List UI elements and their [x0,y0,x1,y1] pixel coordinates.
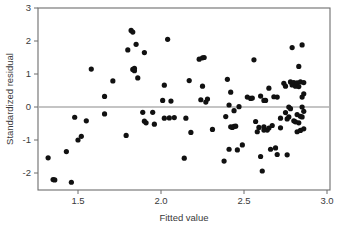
data-point [140,110,145,115]
data-point [226,102,231,107]
data-point [275,152,280,157]
data-point [236,104,241,109]
data-point [89,66,94,71]
data-point [198,97,203,102]
data-point [162,116,167,121]
y-axis-tick-labels: -2-10123 [23,2,31,178]
data-point [210,127,215,132]
data-point [160,98,165,103]
data-point [233,124,238,129]
data-point [266,86,271,91]
y-axis-title: Standardized residual [4,53,15,145]
data-point [143,120,148,125]
x-tick-label: 2.5 [237,195,250,206]
data-point [288,106,293,111]
data-points [46,28,307,185]
data-point [250,95,255,100]
data-point [200,84,205,89]
data-point [268,147,273,152]
data-point [188,130,193,135]
plot-frame [38,8,330,190]
data-point [102,94,107,99]
data-point [52,177,57,182]
data-point [167,115,172,120]
data-point [290,45,295,50]
data-point [182,156,187,161]
data-point [283,84,288,89]
data-point [300,42,305,47]
y-tick-label: 3 [26,2,31,13]
data-point [183,116,188,121]
data-point [134,42,139,47]
data-point [245,95,250,100]
data-point [256,125,261,130]
y-tick-label: -2 [23,167,31,178]
data-point [258,94,263,99]
data-point [273,145,278,150]
data-point [110,78,115,83]
data-point [251,57,256,62]
data-point [223,114,228,119]
data-point [260,168,265,173]
data-point [235,147,240,152]
data-point [150,110,155,115]
data-point [300,114,305,119]
data-point [205,96,210,101]
data-point [135,75,140,80]
x-axis-ticks [78,190,327,194]
data-point [285,152,290,157]
data-point [172,115,177,120]
data-point [142,50,147,55]
data-point [168,98,173,103]
data-point [69,180,74,185]
data-point [225,77,230,82]
scatter-plot-figure: -2-10123 1.52.02.53.0 Fitted value Stand… [0,0,340,228]
y-axis-ticks [34,8,38,173]
data-point [84,118,89,123]
data-point [64,149,69,154]
data-point [275,95,280,100]
y-tick-label: 0 [26,101,31,112]
x-axis-tick-labels: 1.52.02.53.0 [71,195,333,206]
data-point [301,80,306,85]
data-point [301,109,306,114]
plot-canvas: -2-10123 1.52.02.53.0 Fitted value Stand… [0,0,340,228]
data-point [79,134,84,139]
data-point [152,122,157,127]
data-point [261,98,266,103]
data-point [283,110,288,115]
data-point [296,64,301,69]
data-point [253,119,258,124]
data-point [125,47,130,52]
x-tick-label: 3.0 [320,195,333,206]
data-point [258,154,263,159]
y-tick-label: 1 [26,68,31,79]
data-point [72,115,77,120]
data-point [301,126,306,131]
data-point [226,147,231,152]
data-point [278,116,283,121]
data-point [296,84,301,89]
data-point [286,114,291,119]
x-tick-label: 1.5 [71,195,84,206]
y-tick-label: 2 [26,35,31,46]
data-point [130,29,135,34]
data-point [231,108,236,113]
x-axis-title: Fitted value [159,212,208,223]
data-point [296,120,301,125]
data-point [228,90,233,95]
data-point [240,142,245,147]
data-point [301,91,306,96]
data-point [162,83,167,88]
x-tick-label: 2.0 [154,195,167,206]
data-point [165,37,170,42]
y-tick-label: -1 [23,134,31,145]
data-point [221,159,226,164]
data-point [187,78,192,83]
data-point [102,111,107,116]
data-point [278,125,283,130]
data-point [202,55,207,60]
data-point [46,155,51,160]
data-point [132,66,137,71]
data-point [124,133,129,138]
